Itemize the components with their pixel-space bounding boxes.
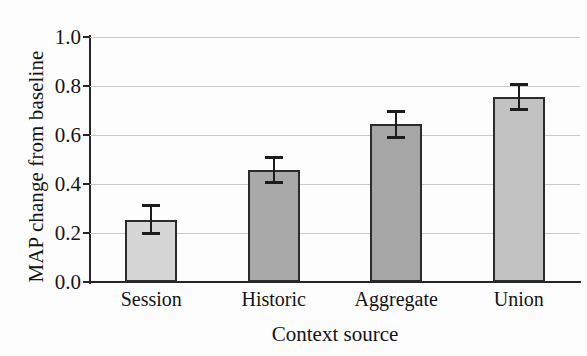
y-axis-tick-label: 0.0 [55,270,81,295]
y-axis-tick-mark [83,232,90,234]
error-bar-cap-bottom [387,136,405,139]
error-bar-stem [395,110,397,138]
y-axis-tick-label: 0.6 [55,123,81,148]
error-bar-cap-top [265,156,283,159]
plot-area: 0.00.20.40.60.81.0 [90,37,580,282]
gridline [90,86,580,87]
error-bar-cap-bottom [510,108,528,111]
y-axis-tick-mark [83,85,90,87]
y-axis-title: MAP change from baseline [24,27,49,307]
bar-aggregate [370,124,422,282]
x-axis-title: Context source [90,322,580,347]
y-axis-tick-mark [83,134,90,136]
y-axis-tick-mark [83,36,90,38]
gridline [90,37,580,38]
error-bar-cap-top [510,83,528,86]
x-axis-label-session: Session [121,288,182,311]
error-bar-cap-bottom [265,181,283,184]
x-axis-label-union: Union [494,288,544,311]
x-axis-label-historic: Historic [242,288,306,311]
bar-union [493,97,545,282]
y-axis-tick-label: 0.8 [55,74,81,99]
error-bar-stem [273,156,275,184]
error-bar-cap-top [387,110,405,113]
x-axis-label-aggregate: Aggregate [355,288,438,311]
bar-historic [248,170,300,282]
y-axis-tick-label: 0.4 [55,172,81,197]
bar-chart: MAP change from baseline 0.00.20.40.60.8… [0,0,587,356]
error-bar-cap-top [142,204,160,207]
y-axis-tick-label: 1.0 [55,25,81,50]
y-axis-tick-label: 0.2 [55,221,81,246]
error-bar-cap-bottom [142,232,160,235]
y-axis-tick-mark [83,281,90,283]
y-axis-tick-mark [83,183,90,185]
error-bar-stem [518,83,520,111]
error-bar-stem [150,204,152,235]
